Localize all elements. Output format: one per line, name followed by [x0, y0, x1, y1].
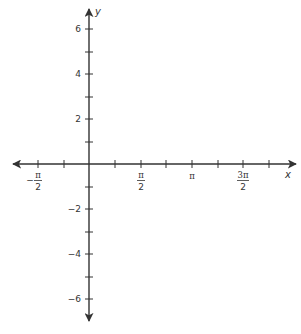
x-tick-label-pi: π — [189, 171, 195, 181]
denominator: 2 — [35, 182, 41, 192]
y-tick-label-2: 2 — [75, 114, 81, 124]
x-tick-label-neg-half-pi: − π 2 — [26, 170, 42, 192]
y-axis-label: y — [94, 6, 102, 17]
y-tick-label-neg6: −6 — [68, 294, 82, 304]
x-tick-label-three-half-pi: 3π 2 — [237, 170, 249, 192]
y-tick-label-4: 4 — [75, 69, 81, 79]
minus-sign: − — [26, 175, 34, 185]
x-axis-label: x — [284, 169, 291, 180]
coordinate-plane: 6 4 2 −2 −4 −6 − π 2 π 2 π 3π 2 x y — [0, 0, 301, 334]
denominator: 2 — [240, 182, 246, 192]
denominator: 2 — [138, 182, 144, 192]
y-tick-label-6: 6 — [75, 24, 81, 34]
numerator: π — [35, 170, 41, 180]
numerator: 3π — [238, 170, 249, 180]
numerator: π — [138, 170, 144, 180]
y-tick-label-neg2: −2 — [68, 204, 81, 214]
x-tick-label-half-pi: π 2 — [137, 170, 145, 192]
y-tick-label-neg4: −4 — [68, 249, 82, 259]
